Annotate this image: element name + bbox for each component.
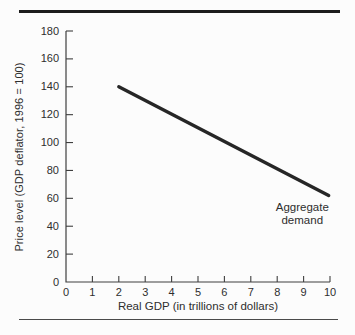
y-tick-label: 60	[47, 192, 59, 204]
y-tick-label: 160	[41, 52, 59, 64]
aggregate-demand-curve	[119, 87, 329, 196]
x-tick-label: 3	[142, 286, 148, 298]
y-tick-label: 20	[47, 248, 59, 260]
bottom-rule	[19, 319, 338, 320]
y-tick-label: 120	[41, 108, 59, 120]
y-tick-label: 0	[53, 276, 59, 288]
y-tick-label: 40	[47, 220, 59, 232]
x-tick-label: 7	[248, 286, 254, 298]
x-tick-label: 8	[274, 286, 280, 298]
y-tick-label: 80	[47, 164, 59, 176]
y-tick-label: 180	[41, 25, 59, 37]
x-tick-label: 10	[324, 286, 336, 298]
figure: 020406080100120140160180012345678910 Pri…	[0, 0, 355, 335]
x-tick-label: 0	[63, 286, 69, 298]
x-tick-label: 2	[116, 286, 122, 298]
x-tick-label: 4	[169, 286, 175, 298]
x-tick-label: 5	[195, 286, 201, 298]
y-axis-title: Price level (GDP deflator, 1996 = 100)	[13, 62, 25, 251]
chart-plot: 020406080100120140160180012345678910	[0, 0, 355, 335]
axes	[66, 31, 330, 282]
aggregate-demand-label-line2: demand	[276, 214, 329, 227]
aggregate-demand-label: Aggregate demand	[276, 201, 329, 227]
aggregate-demand-label-line1: Aggregate	[276, 201, 329, 214]
x-axis-title: Real GDP (in trillions of dollars)	[118, 300, 278, 312]
x-tick-label: 9	[301, 286, 307, 298]
y-tick-label: 100	[41, 136, 59, 148]
x-tick-label: 6	[221, 286, 227, 298]
x-tick-label: 1	[89, 286, 95, 298]
y-tick-label: 140	[41, 80, 59, 92]
